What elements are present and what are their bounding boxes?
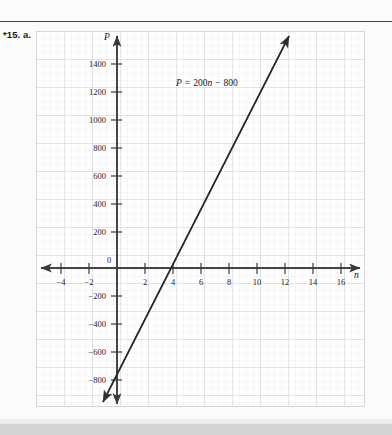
- y-tick-label: 400: [78, 200, 106, 209]
- x-tick-label: 4: [162, 278, 184, 287]
- equation-variable: n: [207, 78, 212, 88]
- equation-lhs: P: [176, 78, 182, 88]
- x-tick-label: 0: [98, 256, 120, 265]
- y-tick-label: 1400: [78, 60, 106, 69]
- x-tick-label: −4: [50, 278, 72, 287]
- footer-band: [0, 424, 392, 435]
- equation-equals: =: [185, 78, 190, 88]
- x-tick-label: 6: [190, 278, 212, 287]
- y-tick-label: −200: [74, 292, 106, 301]
- y-tick-label: 1000: [78, 116, 106, 125]
- x-tick-label: 12: [274, 278, 296, 287]
- graph-figure: 1400 1200 1000 800 600 400 200 −200 −400…: [36, 31, 365, 407]
- y-axis-label: P: [104, 33, 110, 43]
- x-tick-label: 2: [134, 278, 156, 287]
- equation-constant: 800: [224, 78, 238, 88]
- x-tick-label: 14: [302, 278, 324, 287]
- x-tick-label: −2: [78, 278, 100, 287]
- equation-coefficient: 200: [193, 78, 207, 88]
- y-tick-label: −800: [74, 376, 106, 385]
- top-divider: [0, 21, 392, 22]
- y-tick-label: 800: [78, 144, 106, 153]
- problem-number-label: *15. a.: [3, 29, 31, 40]
- x-tick-label: 16: [330, 278, 352, 287]
- x-tick-label: 8: [218, 278, 240, 287]
- x-tick-label: 10: [246, 278, 268, 287]
- y-tick-label: 1200: [78, 88, 106, 97]
- equation-annotation: P=200n−800: [176, 79, 238, 89]
- x-axis-label: n: [354, 271, 359, 281]
- page-canvas: *15. a.: [0, 0, 392, 435]
- y-tick-label: 600: [78, 172, 106, 181]
- equation-minus: −: [215, 78, 220, 88]
- y-tick-label: −600: [74, 348, 106, 357]
- y-tick-label: 200: [78, 228, 106, 237]
- y-tick-label: −400: [74, 320, 106, 329]
